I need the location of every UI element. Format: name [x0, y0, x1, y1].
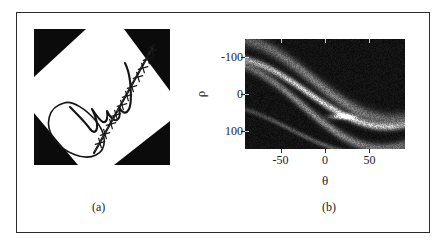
panel-caption-a: (a)	[92, 200, 105, 215]
x-axis-label: θ	[322, 173, 328, 189]
y-tick-label: -100	[199, 50, 243, 65]
figure-frame: -50050 -1000100 θ ρ (a) (b)	[16, 12, 430, 233]
y-tick-label: 100	[199, 123, 243, 138]
x-tick-label: -50	[273, 153, 289, 168]
x-tick-label: 50	[363, 153, 375, 168]
signature-strokes	[34, 29, 170, 165]
panel-a-signature	[34, 29, 170, 165]
y-axis-label: ρ	[193, 91, 209, 98]
signature-image	[34, 29, 170, 165]
panel-caption-b: (b)	[322, 200, 336, 215]
panel-b-hough-plot: -50050 -1000100 θ ρ	[245, 39, 405, 149]
x-tick-label: 0	[322, 153, 328, 168]
hough-canvas	[245, 39, 405, 149]
hough-accumulator-image	[245, 39, 405, 149]
